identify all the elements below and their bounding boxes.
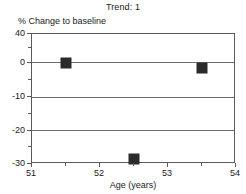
y-tick-label: -30 (1, 158, 25, 168)
y-minor-tick-mark (28, 47, 31, 48)
y-tick-mark (27, 33, 31, 34)
gridline (32, 130, 234, 131)
x-tick-label: 52 (94, 168, 104, 178)
y-axis-label: % Change to baseline (18, 16, 106, 26)
x-minor-tick-mark (65, 163, 66, 166)
x-tick-mark (99, 163, 100, 167)
y-tick-label: -20 (1, 125, 25, 135)
x-minor-tick-mark (201, 163, 202, 166)
y-tick-label: 40 (1, 28, 25, 38)
y-minor-tick-mark (28, 146, 31, 147)
x-tick-mark (167, 163, 168, 167)
x-axis-label: Age (years) (31, 180, 235, 190)
y-tick-mark (27, 130, 31, 131)
x-tick-label: 53 (162, 168, 172, 178)
x-tick-mark (235, 163, 236, 167)
data-point-marker (61, 57, 72, 68)
y-tick-label: -10 (1, 91, 25, 101)
y-tick-label: 0 (1, 57, 25, 67)
x-minor-tick-mark (133, 163, 134, 166)
x-tick-mark (31, 163, 32, 167)
y-minor-tick-mark (28, 113, 31, 114)
data-point-marker (129, 154, 140, 165)
chart-container: Trend: 1 % Change to baseline 400-10-20-… (0, 0, 246, 194)
y-tick-mark (27, 96, 31, 97)
gridline (32, 97, 234, 98)
y-minor-tick-mark (28, 79, 31, 80)
y-tick-mark (27, 62, 31, 63)
chart-title: Trend: 1 (0, 2, 246, 12)
x-tick-label: 54 (230, 168, 240, 178)
x-tick-label: 51 (26, 168, 36, 178)
data-point-marker (197, 63, 208, 74)
plot-area (31, 33, 235, 163)
